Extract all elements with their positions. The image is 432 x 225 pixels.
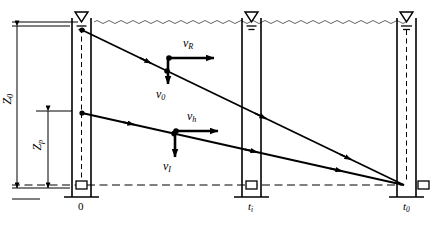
well-right [389, 12, 429, 197]
well-middle-screen-box [246, 181, 257, 189]
upper-flow-origin-dot [79, 27, 84, 32]
diagram-svg [0, 0, 432, 225]
well-left-water-level-triangle [75, 12, 88, 22]
upper-flow-arrow-1 [140, 58, 151, 63]
figure-canvas: Z0 Zp vR v0 vh vI 0 ti t0 [0, 0, 432, 225]
vector-label-v-R: vR [183, 37, 193, 51]
dimension-z0 [12, 26, 70, 188]
axis-label-middle-well: ti [248, 201, 253, 214]
vector-label-v-0: v0 [156, 88, 165, 102]
water-table-group [12, 21, 406, 24]
dimension-label-z0: Z0 [1, 94, 15, 105]
well-right-screen-box [418, 181, 429, 189]
upper-flow-path [82, 30, 404, 185]
vector-v-h [173, 128, 218, 134]
lower-flow-origin-dot [79, 110, 84, 115]
vector-v-R [166, 55, 214, 61]
axis-label-right-well: t0 [403, 201, 410, 214]
upper-flow-arrow-3 [340, 154, 351, 159]
axis-label-left-well: 0 [78, 201, 84, 212]
vector-label-v-h: vh [187, 110, 196, 124]
well-middle-water-level-triangle [245, 12, 258, 22]
v-h-origin-dot [173, 128, 179, 134]
dimension-label-zp: Zp [31, 140, 45, 151]
well-right-water-level-triangle [400, 12, 413, 22]
well-middle [234, 12, 269, 197]
well-left-screen-box [76, 181, 87, 189]
vector-label-v-I: vI [163, 160, 171, 174]
well-left [64, 12, 99, 197]
